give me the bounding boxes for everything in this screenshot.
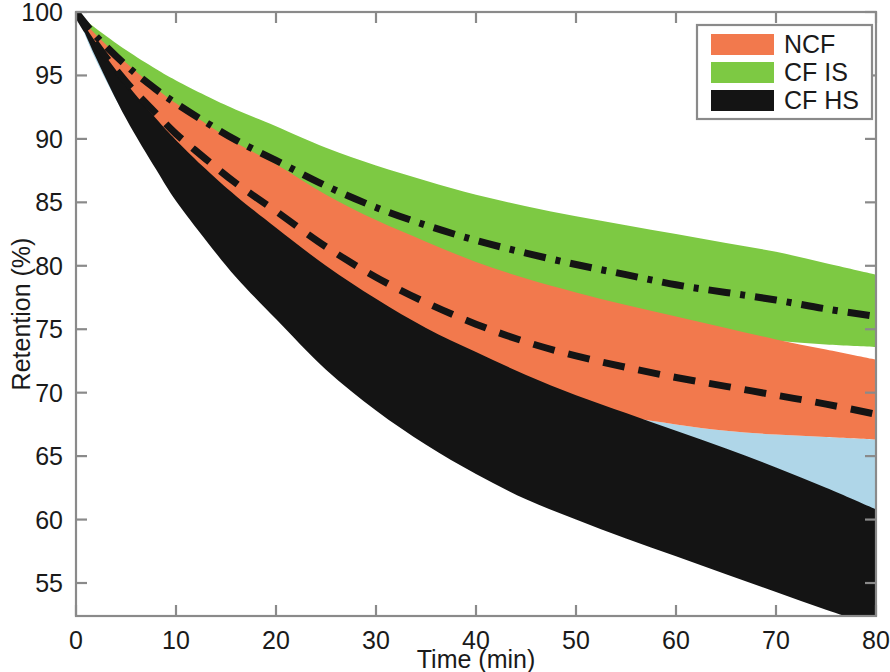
legend-label-ncf: NCF: [784, 30, 835, 58]
y-tick-label: 100: [21, 0, 63, 26]
x-axis-title: Time (min): [417, 645, 536, 672]
chart-legend[interactable]: NCF CF IS CF HS: [697, 25, 872, 119]
y-tick-label: 90: [35, 125, 63, 153]
x-tick-label: 20: [262, 626, 290, 654]
x-tick-label: 50: [562, 626, 590, 654]
y-axis-title: Retention (%): [7, 238, 35, 391]
retention-chart-figure: 556065707580859095100 01020304050607080 …: [0, 0, 890, 672]
y-tick-label: 65: [35, 442, 63, 470]
y-tick-label: 55: [35, 569, 63, 597]
x-tick-label: 10: [162, 626, 190, 654]
y-tick-label: 60: [35, 506, 63, 534]
x-tick-label: 60: [662, 626, 690, 654]
y-tick-label: 95: [35, 61, 63, 89]
legend-swatch-ncf: [711, 34, 774, 55]
x-tick-label: 80: [862, 626, 890, 654]
legend-label-cf-hs: CF HS: [784, 86, 859, 114]
y-tick-label: 80: [35, 252, 63, 280]
chart-canvas: 556065707580859095100 01020304050607080 …: [0, 0, 890, 672]
legend-swatch-cf-is: [711, 62, 774, 83]
y-tick-label: 85: [35, 188, 63, 216]
y-tick-label: 75: [35, 315, 63, 343]
y-tick-label: 70: [35, 379, 63, 407]
legend-label-cf-is: CF IS: [784, 58, 848, 86]
x-tick-label: 0: [69, 626, 83, 654]
x-tick-label: 70: [762, 626, 790, 654]
x-tick-label: 30: [362, 626, 390, 654]
legend-swatch-cf-hs: [711, 90, 774, 111]
